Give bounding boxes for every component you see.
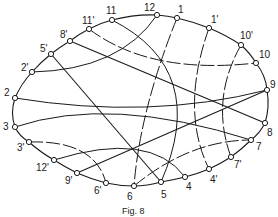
node-label-10p: 10' bbox=[240, 31, 253, 41]
node-label-5: 5 bbox=[161, 190, 167, 200]
ellipse-outline bbox=[13, 15, 269, 186]
node-label-10: 10 bbox=[259, 50, 270, 60]
curve-12-2p bbox=[32, 15, 157, 72]
node-circle-12 bbox=[154, 12, 159, 17]
node-label-1: 1 bbox=[178, 5, 184, 15]
node-circle-11p bbox=[86, 26, 91, 31]
node-circle-9 bbox=[264, 87, 269, 92]
node-label-12p: 12' bbox=[36, 163, 49, 173]
node-circle-6p bbox=[103, 180, 108, 185]
node-circle-3p bbox=[26, 139, 31, 144]
node-label-4p: 4' bbox=[210, 175, 217, 185]
node-label-12: 12 bbox=[144, 3, 155, 13]
node-label-3: 3 bbox=[3, 122, 9, 132]
node-label-1p: 1' bbox=[211, 15, 218, 25]
node-circle-1 bbox=[174, 15, 179, 20]
node-circle-5 bbox=[158, 179, 163, 184]
node-label-8: 8 bbox=[267, 128, 273, 138]
node-circle-6 bbox=[131, 183, 136, 188]
node-label-7p: 7' bbox=[234, 160, 241, 170]
node-label-5p: 5' bbox=[40, 44, 47, 54]
node-circle-11 bbox=[109, 17, 114, 22]
node-circle-8p bbox=[67, 38, 72, 43]
figure-caption: Fig. 8 bbox=[122, 206, 145, 216]
node-label-8p: 8' bbox=[60, 30, 67, 40]
diagram-canvas bbox=[0, 0, 278, 217]
node-circle-5p bbox=[48, 51, 53, 56]
node-circle-2p bbox=[29, 69, 34, 74]
node-circle-8 bbox=[262, 120, 267, 125]
node-circle-12p bbox=[51, 157, 56, 162]
node-circle-7 bbox=[248, 137, 253, 142]
node-label-6: 6 bbox=[127, 192, 133, 202]
node-circle-4p bbox=[206, 166, 211, 171]
curve-2-9 bbox=[15, 90, 267, 107]
node-label-3p: 3' bbox=[17, 143, 24, 153]
node-circle-4 bbox=[182, 174, 187, 179]
node-label-9p: 9' bbox=[65, 176, 72, 186]
node-label-2p: 2' bbox=[21, 63, 28, 73]
node-circle-1p bbox=[206, 25, 211, 30]
node-circle-9p bbox=[74, 170, 79, 175]
node-label-6p: 6' bbox=[94, 186, 101, 196]
node-circle-10p bbox=[238, 42, 243, 47]
node-label-9: 9 bbox=[270, 80, 276, 90]
node-circle-2 bbox=[12, 95, 17, 100]
node-circle-3 bbox=[12, 124, 17, 129]
node-label-7: 7 bbox=[256, 142, 262, 152]
curve-11-5 bbox=[112, 20, 177, 182]
node-circle-10 bbox=[253, 60, 258, 65]
node-label-11p: 11' bbox=[82, 16, 94, 26]
node-label-2: 2 bbox=[4, 88, 10, 98]
diagram-figure: 111211'10'109877'4'4566'9'12'3'322'5'8'1… bbox=[0, 0, 278, 217]
node-label-4: 4 bbox=[186, 182, 192, 192]
curve-3-7 bbox=[15, 114, 251, 140]
node-label-11: 11 bbox=[106, 6, 116, 16]
node-circle-7p bbox=[228, 154, 233, 159]
